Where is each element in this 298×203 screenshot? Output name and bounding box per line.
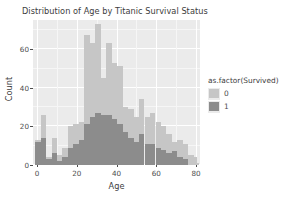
x-axis-tick-label: 0 xyxy=(27,169,47,178)
x-axis-tick-mark xyxy=(117,165,118,167)
legend-color-swatch xyxy=(209,102,219,112)
x-axis-tick-label: 80 xyxy=(186,169,206,178)
plot-panel xyxy=(33,20,200,165)
histogram-bars xyxy=(33,20,200,165)
x-axis-tick-label: 20 xyxy=(67,169,87,178)
chart-root: Distribution of Age by Titanic Survival … xyxy=(0,0,298,203)
y-axis-tick-label: 60 xyxy=(20,45,29,54)
x-axis-title: Age xyxy=(33,181,200,191)
y-axis-tick-mark xyxy=(30,165,32,166)
x-axis-tick-mark xyxy=(37,165,38,167)
legend-item-label: 0 xyxy=(224,90,229,97)
y-axis-tick-mark xyxy=(30,49,32,50)
x-axis-tick-mark xyxy=(196,165,197,167)
x-axis-tick-label: 60 xyxy=(146,169,166,178)
legend: as.factor(Survived) 01 xyxy=(208,76,296,113)
legend-title: as.factor(Survived) xyxy=(208,76,296,85)
legend-item-label: 1 xyxy=(224,103,229,110)
y-axis-tick-label: 40 xyxy=(20,84,29,93)
chart-title: Distribution of Age by Titanic Survival … xyxy=(22,6,208,16)
legend-items: 01 xyxy=(208,87,296,113)
legend-key-background xyxy=(208,101,220,113)
y-axis-tick-label: 20 xyxy=(20,122,29,131)
legend-color-swatch xyxy=(209,89,219,99)
legend-item[interactable]: 1 xyxy=(208,100,296,113)
x-axis-tick-mark xyxy=(77,165,78,167)
legend-key-background xyxy=(208,88,220,100)
x-axis-tick-mark xyxy=(156,165,157,167)
y-axis-title: Count xyxy=(4,67,14,111)
y-axis-tick-mark xyxy=(30,126,32,127)
y-axis-tick-mark xyxy=(30,88,32,89)
legend-item[interactable]: 0 xyxy=(208,87,296,100)
x-axis-tick-label: 40 xyxy=(107,169,127,178)
